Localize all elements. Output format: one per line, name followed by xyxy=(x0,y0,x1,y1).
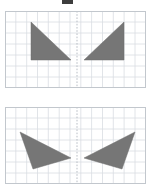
grid-svg-top xyxy=(5,11,146,88)
left-scalene-triangle xyxy=(20,132,71,169)
figure-root xyxy=(0,0,153,194)
grid-svg-bottom xyxy=(5,107,146,184)
grid-panel-top xyxy=(5,11,146,88)
top-edge-mark xyxy=(62,0,73,4)
grid-panel-bottom xyxy=(5,107,146,184)
left-right-triangle xyxy=(31,22,71,60)
grid-lines-top xyxy=(5,11,146,88)
right-right-triangle xyxy=(84,22,124,60)
